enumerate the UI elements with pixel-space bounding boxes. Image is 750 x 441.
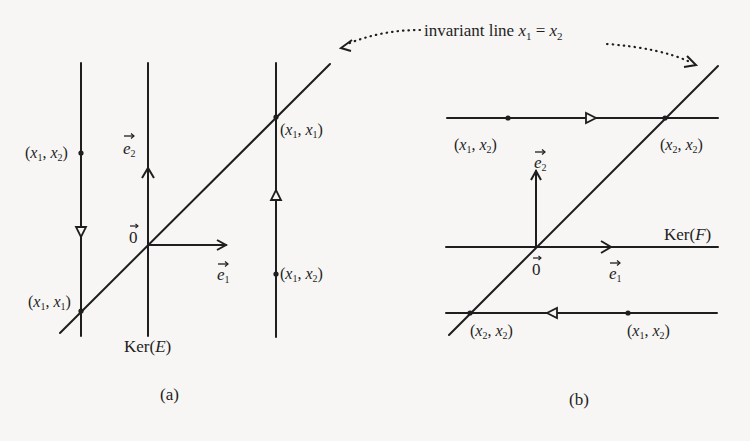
flow-right-triangle-icon [586,113,596,123]
caption-b: (b) [569,390,589,409]
panel-b: (x1, x2) (x2, x2) (x2, x2) (x1, x2) e2 0… [446,66,718,409]
fixed-point-dot [273,114,278,119]
pointer-arrowhead-right-icon [684,56,696,67]
flow-left-triangle-icon [547,308,557,318]
annotation-text: invariant line x1 = x2 [424,21,563,42]
origin-label-a: 0 [129,224,138,247]
point-label: (x1, x2) [627,322,670,341]
diagram-canvas: invariant line x1 = x2 (x1, x2) (x1, x1)… [0,0,750,441]
e1-label-a: e1 [217,262,230,286]
fixed-point-label: (x1, x1) [280,121,323,140]
invariant-line-a [60,64,330,333]
panel-a: (x1, x2) (x1, x1) (x1, x1) (x1, x2) e2 0… [25,63,330,404]
invariant-line-annotation: invariant line x1 = x2 [341,21,696,67]
fixed-point-label: (x2, x2) [470,322,513,341]
dotted-pointer-left [345,30,420,45]
point-dot [78,150,83,155]
svg-text:e1: e1 [217,265,230,285]
kernel-label-f: Ker(F) [664,225,711,244]
fixed-point-dot [662,115,667,120]
pointer-arrowhead-left-icon [341,40,352,51]
point-dot [625,310,630,315]
e1-label-b: e1 [609,261,622,285]
svg-text:0: 0 [532,260,541,279]
caption-a: (a) [160,385,179,404]
fixed-point-label: (x2, x2) [660,136,703,155]
fixed-point-dot [78,308,83,313]
point-label: (x1, x2) [454,136,497,155]
fixed-point-label: (x1, x1) [28,293,71,312]
invariant-line-b [449,66,718,335]
point-dot [273,271,278,276]
dotted-pointer-right [607,44,690,62]
e2-label-a: e2 [123,134,136,160]
origin-label-b: 0 [532,256,541,279]
e2-label-b: e2 [534,150,547,174]
fixed-point-dot [467,310,472,315]
point-label: (x1, x2) [280,265,323,284]
flow-up-triangle-icon [271,190,281,200]
svg-text:e1: e1 [609,264,622,284]
point-dot [505,115,510,120]
point-label: (x1, x2) [25,144,68,163]
kernel-label-e: Ker(E) [124,337,171,356]
svg-text:e2: e2 [123,139,136,159]
flow-down-triangle-icon [76,227,86,237]
svg-text:0: 0 [129,228,138,247]
svg-text:e2: e2 [534,153,547,173]
